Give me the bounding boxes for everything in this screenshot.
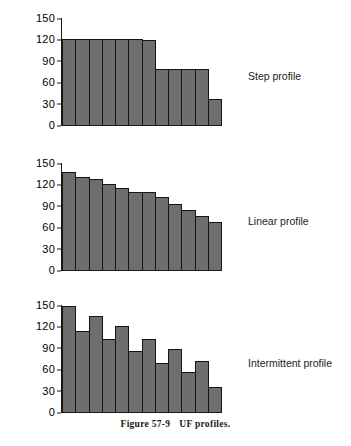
y-axis-tick-150: 150	[36, 158, 62, 169]
bar	[142, 192, 156, 270]
y-axis-tick-30: 30	[42, 385, 62, 396]
figure-caption: Figure 57-9UF profiles.	[0, 419, 351, 429]
bar	[75, 177, 89, 270]
bar	[195, 69, 209, 125]
bar	[195, 216, 209, 270]
y-axis-tick-0: 0	[49, 265, 62, 276]
bar	[168, 69, 182, 125]
y-axis-tick-0: 0	[49, 407, 62, 418]
bar	[62, 39, 76, 125]
bar	[208, 387, 222, 412]
bar	[115, 326, 129, 412]
chart-title-linear-profile: Linear profile	[248, 216, 309, 227]
chart-title-step-profile: Step profile	[248, 71, 301, 82]
y-axis-tick-60: 60	[42, 222, 62, 233]
bar	[62, 172, 76, 270]
bar	[181, 372, 195, 412]
chart-title-intermittent-profile: Intermittent profile	[248, 358, 332, 369]
plot-area-step-profile: 1501209060300	[62, 18, 222, 125]
chart-step-profile: 1501209060300 Step profile	[0, 8, 351, 144]
bar	[128, 351, 142, 412]
figure-caption-text: UF profiles.	[179, 419, 230, 429]
y-axis-tick-150: 150	[36, 300, 62, 311]
bar	[168, 349, 182, 412]
bar	[102, 184, 116, 270]
y-axis-tick-90: 90	[42, 55, 62, 66]
y-axis-tick-0: 0	[49, 120, 62, 131]
bar-series-linear-profile	[62, 163, 222, 270]
bar	[142, 339, 156, 412]
y-axis-tick-120: 120	[36, 34, 62, 45]
plot-area-linear-profile: 1501209060300	[62, 163, 222, 270]
y-axis-tick-150: 150	[36, 13, 62, 24]
x-axis-line	[61, 412, 222, 413]
figure-caption-number: Figure 57-9	[121, 419, 171, 429]
y-axis-tick-120: 120	[36, 321, 62, 332]
y-axis-tick-30: 30	[42, 243, 62, 254]
bar	[75, 331, 89, 412]
bar	[181, 210, 195, 270]
bar	[89, 39, 103, 125]
figure-uf-profiles: 1501209060300 Step profile 1501209060300…	[0, 0, 351, 446]
bar	[128, 39, 142, 125]
bar	[102, 39, 116, 125]
x-axis-line	[61, 125, 222, 126]
y-axis-tick-120: 120	[36, 179, 62, 190]
bar	[181, 69, 195, 125]
y-axis-tick-60: 60	[42, 77, 62, 88]
chart-linear-profile: 1501209060300 Linear profile	[0, 153, 351, 289]
bar	[102, 339, 116, 412]
bar	[89, 179, 103, 270]
bar	[115, 39, 129, 125]
y-axis-tick-30: 30	[42, 98, 62, 109]
bar	[195, 361, 209, 412]
bar	[75, 39, 89, 125]
bar	[155, 363, 169, 412]
bar	[62, 306, 76, 412]
plot-area-intermittent-profile: 1501209060300	[62, 305, 222, 412]
bar	[208, 99, 222, 125]
chart-intermittent-profile: 1501209060300 Intermittent profile	[0, 295, 351, 431]
bar	[155, 197, 169, 270]
y-axis-tick-60: 60	[42, 364, 62, 375]
bar	[128, 192, 142, 270]
bar-series-intermittent-profile	[62, 305, 222, 412]
bar	[208, 222, 222, 271]
bar	[115, 188, 129, 270]
y-axis-tick-90: 90	[42, 200, 62, 211]
bar	[155, 69, 169, 125]
y-axis-tick-90: 90	[42, 342, 62, 353]
bar	[168, 204, 182, 270]
x-axis-line	[61, 270, 222, 271]
bar	[142, 40, 156, 125]
bar	[89, 316, 103, 412]
bar-series-step-profile	[62, 18, 222, 125]
